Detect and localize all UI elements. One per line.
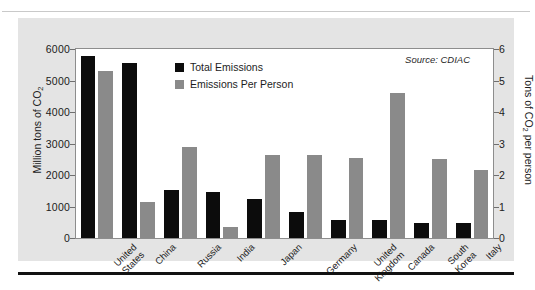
source-annotation: Source: CDIAC	[405, 54, 470, 65]
bar-group	[289, 49, 322, 238]
legend-label-per-person: Emissions Per Person	[190, 78, 293, 90]
bar-emissions-per-person	[265, 155, 280, 238]
right-axis-tickmark	[494, 112, 499, 113]
bar-emissions-per-person	[432, 159, 447, 238]
bar-total-emissions	[81, 56, 96, 238]
bar-total-emissions	[331, 220, 346, 238]
top-divider-rule	[2, 11, 530, 12]
bar-total-emissions	[414, 223, 429, 238]
right-axis-tick-4: 4	[499, 106, 521, 118]
bar-emissions-per-person	[98, 71, 113, 238]
right-axis-tick-0: 0	[499, 232, 521, 244]
right-axis-title-text: Tons of CO	[523, 75, 535, 128]
category-label: United Kingdom	[365, 242, 406, 283]
left-axis-tickmark	[70, 207, 75, 208]
category-label: South Korea	[445, 242, 478, 275]
left-axis-tickmark	[70, 238, 75, 239]
left-axis-tick-0: 0	[32, 232, 70, 244]
bar-emissions-per-person	[390, 93, 405, 238]
bar-emissions-per-person	[307, 155, 322, 238]
category-label: Japan	[278, 242, 304, 268]
category-label: Canada	[406, 242, 437, 273]
chart-panel: 6000500040003000200010000 6543210 Millio…	[18, 18, 514, 261]
left-axis-tickmark	[70, 49, 75, 50]
left-axis-tickmark	[70, 144, 75, 145]
left-axis-title-text: Million tons of CO	[31, 91, 43, 174]
right-axis-tickmark	[494, 81, 499, 82]
bar-total-emissions	[372, 220, 387, 238]
legend-label-total: Total Emissions	[190, 61, 263, 73]
bar-emissions-per-person	[223, 227, 238, 238]
legend-swatch-icon-total	[175, 63, 184, 72]
bar-total-emissions	[206, 192, 221, 238]
right-axis-title-suffix: per person	[523, 132, 535, 185]
bottom-divider-rule	[18, 272, 514, 275]
right-axis-tick-2: 2	[499, 169, 521, 181]
right-axis-tickmark	[494, 175, 499, 176]
right-axis-title: Tons of CO2 per person	[521, 50, 535, 210]
category-axis-labels: United StatesChinaRussiaIndiaJapanGerman…	[76, 240, 493, 284]
legend-item-emissions-per-person: Emissions Per Person	[175, 78, 293, 90]
chart-legend: Total Emissions Emissions Per Person	[175, 61, 293, 95]
bar-emissions-per-person	[349, 158, 364, 238]
right-axis-tickmark	[494, 49, 499, 50]
category-label: Russia	[196, 242, 224, 270]
right-axis-tickmark	[494, 238, 499, 239]
bar-group	[372, 49, 405, 238]
left-axis-tickmark	[70, 175, 75, 176]
right-axis-tick-3: 3	[499, 138, 521, 150]
bar-group	[81, 49, 114, 238]
left-axis-title: Million tons of CO2	[31, 50, 45, 210]
bar-group	[456, 49, 489, 238]
bar-total-emissions	[456, 223, 471, 238]
right-axis-tick-5: 5	[499, 75, 521, 87]
legend-item-total-emissions: Total Emissions	[175, 61, 293, 73]
bar-group	[331, 49, 364, 238]
bar-total-emissions	[122, 63, 137, 238]
left-axis-tickmark	[70, 112, 75, 113]
category-label: Italy	[484, 242, 504, 262]
bar-total-emissions	[289, 212, 304, 238]
left-axis-tickmark	[70, 81, 75, 82]
category-label: India	[235, 242, 257, 264]
right-axis-tickmark	[494, 207, 499, 208]
bar-emissions-per-person	[140, 202, 155, 238]
category-label: China	[153, 242, 178, 267]
right-axis-tick-1: 1	[499, 201, 521, 213]
bar-group	[414, 49, 447, 238]
right-axis-tickmark	[494, 144, 499, 145]
bar-emissions-per-person	[182, 147, 197, 238]
legend-swatch-icon-per-person	[175, 80, 184, 89]
left-axis-title-subscript: 2	[36, 86, 45, 90]
bar-total-emissions	[164, 190, 179, 238]
bar-group	[122, 49, 155, 238]
right-axis-tick-6: 6	[499, 43, 521, 55]
bar-total-emissions	[247, 199, 262, 238]
bar-emissions-per-person	[474, 170, 489, 238]
